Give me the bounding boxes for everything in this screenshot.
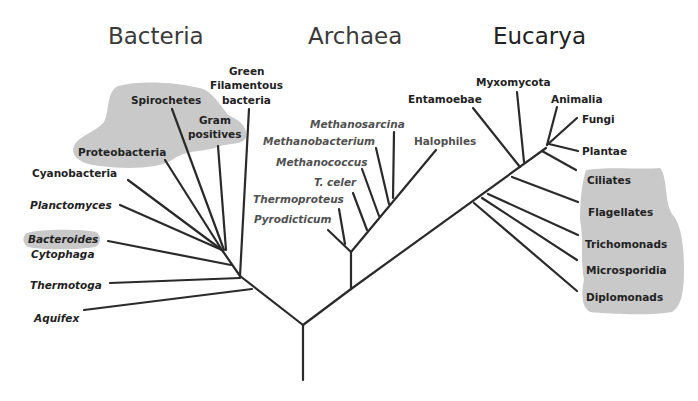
label-cyanobacteria: Cyanobacteria — [32, 167, 117, 179]
branch-thermoproteus — [339, 209, 345, 244]
branch-pyrodicticum — [328, 230, 351, 252]
label-myxomycota: Myxomycota — [476, 76, 551, 88]
branch-diplomonads — [474, 203, 577, 291]
phylogenetic-tree: Bacteria Archaea Eucarya Green Filamento… — [0, 0, 698, 401]
label-halophiles: Halophiles — [414, 135, 476, 147]
label-flagellates: Flagellates — [588, 206, 653, 218]
label-thermotoga: Thermotoga — [30, 279, 102, 291]
branch-aquifex — [84, 289, 252, 310]
label-methanosarcina: Methanosarcina — [310, 118, 405, 130]
branch-plantae — [549, 144, 578, 151]
branch-methanosarcina — [393, 132, 394, 198]
branch-t-celer — [353, 193, 367, 230]
branch-ciliates — [542, 151, 576, 170]
label-planctomyces: Planctomyces — [30, 199, 112, 211]
label-microsporidia: Microsporidia — [586, 264, 667, 276]
archaea-eucarya-trunk — [303, 289, 351, 325]
label-thermoproteus: Thermoproteus — [253, 193, 344, 205]
label-plantae: Plantae — [582, 145, 627, 157]
title-archaea: Archaea — [308, 23, 402, 49]
branch-methanobacterium — [376, 148, 389, 204]
label-cytophaga: Cytophaga — [31, 248, 94, 260]
branch-methanococcus — [362, 169, 379, 216]
label-proteobacteria: Proteobacteria — [78, 146, 166, 158]
label-animalia: Animalia — [551, 93, 603, 105]
label-fungi: Fungi — [582, 113, 615, 125]
label-spirochetes: Spirochetes — [131, 94, 201, 106]
label-methanobacterium: Methanobacterium — [263, 135, 375, 147]
label-methanococcus: Methanococcus — [276, 156, 367, 168]
label-trichomonads: Trichomonads — [585, 238, 667, 250]
label-positives: positives — [188, 128, 241, 140]
label-green: Green — [229, 65, 265, 77]
branch-bacteroides — [108, 241, 231, 265]
branch-trichomonads — [488, 194, 578, 235]
branch-myxomycota — [517, 92, 524, 162]
bacteria-trunk — [240, 276, 303, 325]
label-filamentous: Filamentous — [210, 79, 283, 91]
title-bacteria: Bacteria — [108, 23, 204, 49]
branch-thermotoga — [110, 278, 240, 283]
label-bacteroides: Bacteroides — [28, 233, 98, 245]
branch-flagellates — [512, 177, 578, 202]
label-bacteria-green: bacteria — [222, 94, 271, 106]
label-aquifex: Aquifex — [33, 312, 80, 324]
label-pyrodicticum: Pyrodicticum — [254, 213, 332, 225]
label-ciliates: Ciliates — [587, 174, 631, 186]
label-entamoebae: Entamoebae — [408, 93, 482, 105]
label-diplomonads: Diplomonads — [586, 291, 663, 303]
label-t-celer: T. celer — [314, 176, 357, 188]
title-eucarya: Eucarya — [493, 23, 586, 49]
branch-entamoebae — [473, 108, 520, 167]
label-gram: Gram — [199, 114, 231, 126]
